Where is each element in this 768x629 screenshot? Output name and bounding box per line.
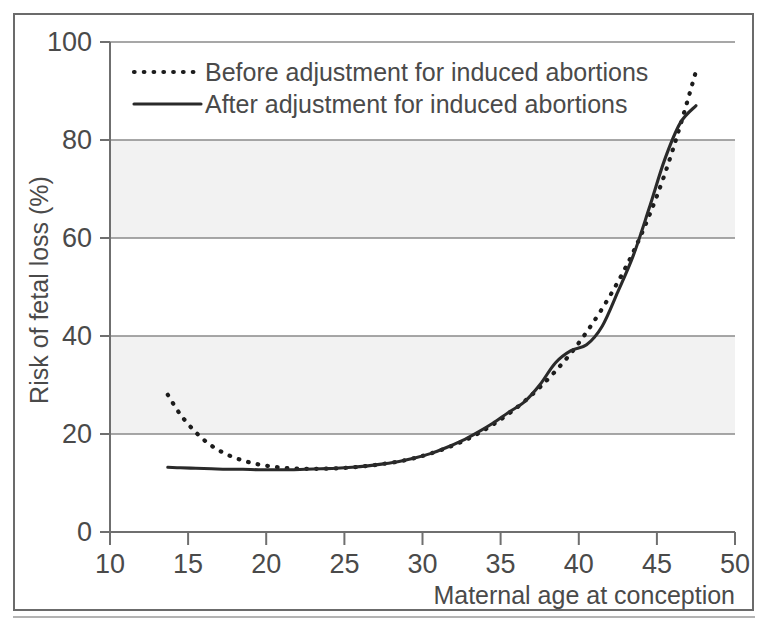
y-axis-title: Risk of fetal loss (%) bbox=[25, 176, 53, 404]
x-tick-label-45: 45 bbox=[642, 549, 672, 579]
x-tick-label-35: 35 bbox=[486, 549, 516, 579]
y-tick-label-40: 40 bbox=[62, 321, 92, 351]
x-tick-label-40: 40 bbox=[564, 549, 594, 579]
x-tick-label-10: 10 bbox=[95, 549, 125, 579]
x-axis-ticks bbox=[110, 532, 735, 545]
band-60-80 bbox=[110, 140, 735, 238]
y-tick-label-80: 80 bbox=[62, 125, 92, 155]
x-axis-title: Maternal age at conception bbox=[433, 581, 735, 609]
legend-label-before: Before adjustment for induced abortions bbox=[205, 58, 648, 86]
y-axis-ticks bbox=[100, 42, 110, 532]
chart-legend: Before adjustment for induced abortions … bbox=[134, 58, 648, 118]
x-tick-label-20: 20 bbox=[251, 549, 281, 579]
x-tick-label-25: 25 bbox=[329, 549, 359, 579]
x-tick-label-15: 15 bbox=[173, 549, 203, 579]
y-tick-label-60: 60 bbox=[62, 223, 92, 253]
shaded-bands bbox=[110, 140, 735, 434]
figure-root: 0 20 40 60 80 100 10 15 20 25 30 35 40 4… bbox=[0, 0, 768, 629]
y-tick-label-100: 100 bbox=[47, 27, 92, 57]
y-tick-label-20: 20 bbox=[62, 419, 92, 449]
y-axis-tick-labels: 0 20 40 60 80 100 bbox=[47, 27, 92, 547]
y-tick-label-0: 0 bbox=[77, 517, 92, 547]
legend-label-after: After adjustment for induced abortions bbox=[205, 90, 627, 118]
x-axis-tick-labels: 10 15 20 25 30 35 40 45 50 bbox=[95, 549, 750, 579]
fetal-loss-line-chart: 0 20 40 60 80 100 10 15 20 25 30 35 40 4… bbox=[0, 0, 768, 629]
x-tick-label-30: 30 bbox=[407, 549, 437, 579]
x-tick-label-50: 50 bbox=[720, 549, 750, 579]
band-20-40 bbox=[110, 336, 735, 434]
